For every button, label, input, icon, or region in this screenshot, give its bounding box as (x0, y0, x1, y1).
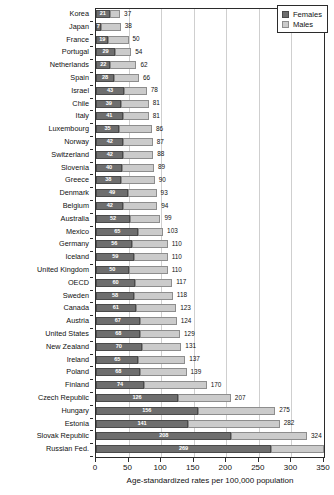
bar-row: 50110 (96, 265, 324, 276)
bar-segment-males (140, 330, 180, 338)
y-axis-tick (90, 21, 93, 22)
bar-value-females: 58 (96, 291, 134, 299)
y-axis-tick (90, 46, 93, 47)
bar-value-females: 68 (96, 329, 140, 337)
bar-row: 2954 (96, 47, 324, 58)
y-axis-label: Portugal (62, 46, 89, 57)
bar-value-females: 42 (96, 201, 123, 209)
y-axis-tick (90, 277, 93, 278)
bar-segment-males (132, 240, 167, 248)
bar-segment-males (142, 343, 182, 351)
y-axis-tick (90, 136, 93, 137)
bar-value-females: 68 (96, 367, 140, 375)
bar-segment-males (119, 125, 152, 133)
bar-value-total: 81 (153, 98, 160, 107)
y-axis-tick (90, 418, 93, 419)
y-axis-tick (90, 72, 93, 73)
bar-segment-males (101, 23, 121, 31)
y-axis-label: Australia (61, 213, 89, 224)
bar-value-females: 39 (96, 99, 121, 107)
y-axis-label: Italy (76, 110, 89, 121)
bar-value-females: 65 (96, 227, 138, 235)
y-axis-tick (90, 392, 93, 393)
bar-value-total: 124 (181, 316, 192, 325)
bar-value-total: 110 (172, 265, 182, 274)
y-axis-label: Slovenia (61, 162, 89, 173)
bar-value-females: 56 (96, 239, 132, 247)
bar-row: 4287 (96, 137, 324, 148)
y-axis-tick (90, 162, 93, 163)
y-axis-tick (90, 290, 93, 291)
bar-value-total: 275 (279, 405, 290, 414)
bar-segment-males (121, 176, 155, 184)
bar-value-total: 117 (176, 277, 186, 286)
bar-value-total: 118 (177, 290, 187, 299)
bar-value-females: 19 (96, 35, 108, 43)
bar-segment-males (122, 164, 154, 172)
y-axis-tick (90, 430, 93, 431)
bar-value-females: 29 (96, 47, 115, 55)
y-axis-tick (90, 238, 93, 239)
bar-value-total: 129 (184, 329, 195, 338)
y-axis-label: Israel (71, 85, 89, 96)
bar-row: 156275 (96, 406, 324, 417)
stacked-bar-chart: KoreaJapanFrancePortugalNetherlandsSpain… (0, 0, 334, 495)
bar-segment-males (110, 10, 120, 18)
y-axis-label: New Zealand (46, 341, 89, 352)
bar-value-females: 61 (96, 303, 136, 311)
bar-value-total: 93 (161, 188, 168, 197)
y-axis-tick (90, 315, 93, 316)
bar-row: 68129 (96, 329, 324, 340)
bar-value-females: 141 (96, 419, 188, 427)
bar-segment-males (128, 189, 157, 197)
bar-value-females: 59 (96, 252, 134, 260)
y-axis-tick (90, 366, 93, 367)
bar-value-females: 42 (96, 150, 123, 158)
bar-segment-males (188, 420, 280, 428)
bar-segment-males (123, 151, 153, 159)
x-axis-tick-label: 350 (316, 463, 329, 472)
bar-value-females: 60 (96, 278, 135, 286)
bar-row: 1950 (96, 35, 324, 46)
bar-rows: 2137738195029542262286643783981418135864… (96, 9, 324, 457)
bar-row: 60117 (96, 278, 324, 289)
y-axis-label: Canada (63, 302, 89, 313)
bar-value-total: 89 (158, 162, 165, 171)
bar-value-total: 81 (153, 111, 160, 120)
bar-value-total: 66 (143, 73, 150, 82)
bar-row: 61123 (96, 303, 324, 314)
legend-swatch-males-icon (282, 21, 289, 28)
bar-row: 4294 (96, 201, 324, 212)
bar-value-females: 40 (96, 163, 122, 171)
bar-row: 4993 (96, 188, 324, 199)
bar-value-total: 324 (311, 431, 322, 440)
bar-row: 74170 (96, 380, 324, 391)
x-axis-tick-label: 50 (123, 463, 132, 472)
bar-value-total: 99 (164, 213, 171, 222)
bar-segment-males (231, 432, 307, 440)
bar-row: 4288 (96, 150, 324, 161)
bar-value-females: 35 (96, 124, 119, 132)
y-axis-tick (90, 456, 93, 457)
bar-value-females: 38 (96, 175, 121, 183)
bar-segment-males (144, 381, 207, 389)
bar-row: 58118 (96, 291, 324, 302)
bar-value-females: 269 (96, 444, 271, 452)
y-axis-label: Finland (65, 379, 89, 390)
y-axis-tick (90, 149, 93, 150)
x-axis-tick (193, 458, 194, 462)
y-axis-label: Spain (70, 72, 89, 83)
bar-segment-males (271, 445, 324, 453)
bar-value-females: 43 (96, 86, 124, 94)
bar-value-females: 7 (96, 22, 101, 30)
x-axis-tick-label: 200 (219, 463, 232, 472)
y-axis-label: Ireland (67, 354, 89, 365)
y-axis-label: Greece (65, 174, 89, 185)
bar-segment-males (138, 356, 185, 364)
bar-segment-males (108, 36, 128, 44)
bar-row: 65137 (96, 355, 324, 366)
bar-value-total: 123 (180, 303, 191, 312)
bar-value-total: 110 (172, 239, 182, 248)
bar-value-females: 52 (96, 214, 130, 222)
bar-value-females: 41 (96, 111, 123, 119)
